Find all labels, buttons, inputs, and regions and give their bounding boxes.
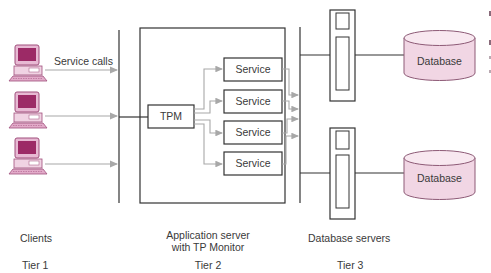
database-label-2: Database <box>404 172 475 184</box>
tier2-label: Tier 2 <box>158 259 258 271</box>
database-server-icon-2 <box>330 128 355 219</box>
database-label-1: Database <box>404 55 475 67</box>
service-label-4: Service <box>224 157 282 169</box>
service-calls-label: Service calls <box>54 55 113 67</box>
tier3-label: Tier 3 <box>337 259 363 271</box>
client-pc-icon-2 <box>9 92 47 128</box>
service-label-1: Service <box>224 63 282 75</box>
tier1-label: Tier 1 <box>22 259 48 271</box>
tpm-label: TPM <box>148 110 194 122</box>
database-server-icon-1 <box>330 10 355 101</box>
tier3-name-label: Database servers <box>308 232 390 244</box>
tier2-name-label-line1: Application server <box>158 229 258 241</box>
tier1-name-label: Clients <box>20 232 52 244</box>
service-label-3: Service <box>224 126 282 138</box>
client-pc-icon-3 <box>9 138 47 174</box>
client-pc-icon-1 <box>9 45 47 81</box>
service-label-2: Service <box>224 95 282 107</box>
tier2-name-label-line2: with TP Monitor <box>158 241 258 253</box>
